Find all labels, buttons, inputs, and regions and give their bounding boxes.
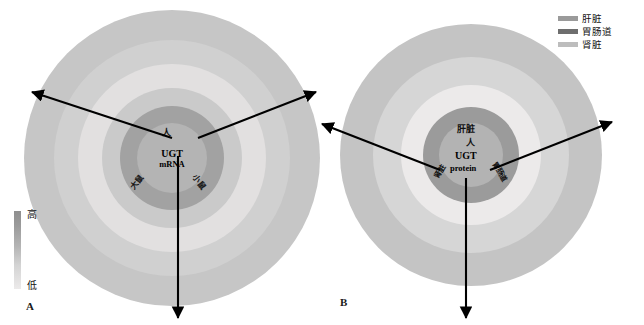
figure-root: UGT mRNA 人 大鼠 小鼠 高 低 A 肝脏 人 UGT protein [0,0,644,325]
arrow-b-upleft [322,124,440,170]
arrow-b-upright [490,122,612,170]
arrow-overlay [0,0,644,325]
arrow-a-upright [198,92,316,138]
arrow-a-upleft [32,92,172,138]
